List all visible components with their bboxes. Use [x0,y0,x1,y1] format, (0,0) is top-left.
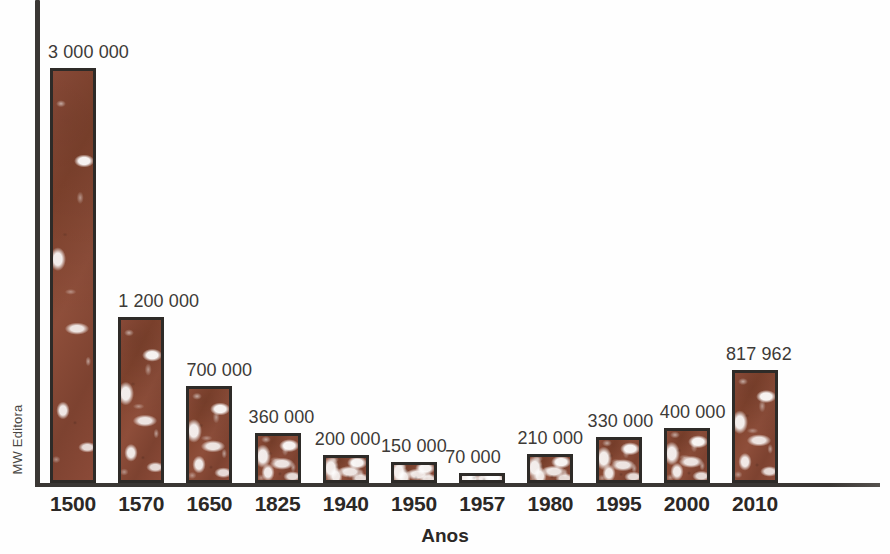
bar-value-label: 330 000 [588,411,654,432]
bar-texture [667,431,707,480]
bar-texture [735,373,775,480]
bar-texture [530,457,570,480]
bar [323,455,369,483]
bar-value-label: 150 000 [381,436,447,457]
bar [459,473,505,483]
bar-texture [599,440,639,480]
x-tick-label-1825: 1825 [243,492,313,516]
x-tick-label-1500: 1500 [38,492,108,516]
bar [118,317,164,483]
bar-value-label: 400 000 [660,402,726,423]
plot-area: 3 000 0001 200 000700 000360 000200 0001… [0,0,890,487]
bar-value-label: 1 200 000 [118,291,199,312]
bar-chart: MW Editora 3 000 0001 200 000700 000360 … [0,0,890,554]
bar-texture [121,320,161,480]
bar-value-label: 210 000 [517,428,583,449]
bar-texture [326,458,366,480]
bar [255,433,301,483]
bar [527,454,573,483]
bar [664,428,710,483]
x-tick-label-2010: 2010 [720,492,790,516]
x-tick-label-1940: 1940 [311,492,381,516]
bar-texture [189,389,229,480]
bar-value-label: 700 000 [186,360,252,381]
x-tick-label-1980: 1980 [515,492,585,516]
bar-texture [394,465,434,480]
bar-value-label: 70 000 [445,447,501,468]
bar-texture [258,436,298,480]
bar [732,370,778,483]
x-tick-label-1950: 1950 [379,492,449,516]
x-tick-label-1995: 1995 [584,492,654,516]
x-tick-label-2000: 2000 [652,492,722,516]
bar-texture [462,476,502,480]
bar [50,68,96,483]
bar [596,437,642,483]
bar [186,386,232,483]
bar-value-label: 817 962 [726,344,792,365]
bar-value-label: 200 000 [315,429,381,450]
x-tick-label-1650: 1650 [174,492,244,516]
x-tick-label-1957: 1957 [447,492,517,516]
bar-value-label: 3 000 000 [48,42,129,63]
x-axis-title: Anos [0,525,890,547]
bar-value-label: 360 000 [249,407,315,428]
bar-texture [53,71,93,480]
x-tick-label-1570: 1570 [106,492,176,516]
bar [391,462,437,483]
